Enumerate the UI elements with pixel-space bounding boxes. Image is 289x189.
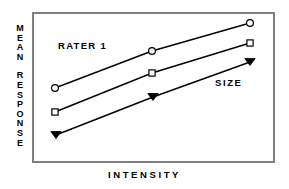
x-axis-title: INTENSITY xyxy=(0,169,289,180)
data-point-triangle xyxy=(51,132,61,139)
rater-annotation: RATER 1 xyxy=(58,40,107,51)
data-point-square xyxy=(247,40,253,46)
size-annotation: SIZE xyxy=(215,77,243,88)
data-point-square xyxy=(52,109,58,115)
data-point-triangle xyxy=(245,59,255,66)
data-point-circle xyxy=(52,85,59,92)
data-point-circle xyxy=(247,20,254,27)
series-layer xyxy=(0,0,289,189)
data-point-circle xyxy=(149,48,156,55)
data-point-square xyxy=(149,70,155,76)
data-point-triangle xyxy=(148,94,158,101)
figure-canvas: MEAN RESPONSE RATER 1 SIZE INTENSITY xyxy=(0,0,289,189)
